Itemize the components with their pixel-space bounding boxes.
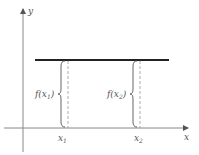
brace-fx2 [130, 61, 137, 127]
f-x2-label: f(x2) [106, 89, 127, 100]
constant-function-diagram: y x f(x1) f(x2) x1 x2 [0, 0, 199, 155]
brace-fx1 [58, 61, 65, 127]
y-axis-label: y [27, 6, 34, 16]
f-x1-label: f(x1) [34, 89, 55, 100]
x2-label: x2 [134, 133, 143, 144]
x1-label: x1 [58, 133, 67, 144]
x-axis-label: x [184, 132, 189, 142]
